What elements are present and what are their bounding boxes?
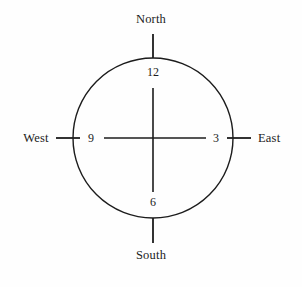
label-west: West xyxy=(14,132,58,145)
label-south: South xyxy=(0,249,302,262)
label-hour-12: 12 xyxy=(138,66,168,78)
compass-clock-diagram: North South West East 12 3 6 9 xyxy=(0,0,302,287)
label-hour-6: 6 xyxy=(141,196,165,208)
label-east: East xyxy=(258,132,298,145)
label-hour-9: 9 xyxy=(84,132,98,144)
label-hour-3: 3 xyxy=(209,132,223,144)
label-north: North xyxy=(0,13,302,26)
